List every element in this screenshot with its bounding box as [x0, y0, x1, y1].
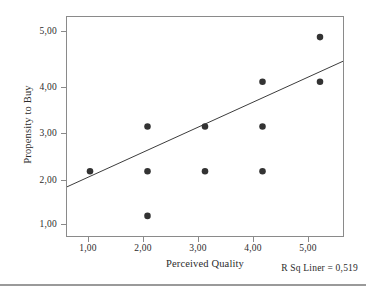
data-point [144, 168, 151, 175]
x-tick-label-1: 1,00 [68, 243, 108, 254]
scatter-plot-figure: 1,00 2,00 3,00 4,00 5,00 1,00 2,00 3,00 … [0, 0, 366, 295]
data-point [259, 79, 266, 86]
x-tick-5 [308, 237, 309, 242]
plot-canvas [67, 17, 343, 236]
data-point [144, 213, 151, 220]
y-tick-2 [61, 180, 66, 181]
y-tick-3 [61, 133, 66, 134]
x-tick-4 [253, 237, 254, 242]
y-axis-title: Propensity to Buy [22, 40, 33, 210]
footer-divider [0, 284, 366, 286]
x-tick-label-3: 3,00 [178, 243, 218, 254]
x-tick-2 [143, 237, 144, 242]
y-tick-label-1: 1,00 [17, 219, 57, 230]
y-tick-4 [61, 87, 66, 88]
data-point [317, 79, 324, 86]
data-point [144, 123, 151, 130]
data-point [317, 34, 324, 41]
y-tick-5 [61, 31, 66, 32]
y-tick-label-5: 5,00 [17, 26, 57, 37]
x-tick-3 [198, 237, 199, 242]
x-tick-label-5: 5,00 [288, 243, 328, 254]
y-tick-1 [61, 224, 66, 225]
x-tick-label-2: 2,00 [123, 243, 163, 254]
data-point [202, 168, 209, 175]
data-point [87, 168, 94, 175]
data-point [259, 168, 266, 175]
r-squared-annotation: R Sq Liner = 0,519 [281, 263, 358, 273]
x-tick-label-4: 4,00 [233, 243, 273, 254]
plot-area [66, 16, 344, 237]
data-point [259, 123, 266, 130]
x-tick-1 [88, 237, 89, 242]
data-point [202, 123, 209, 130]
